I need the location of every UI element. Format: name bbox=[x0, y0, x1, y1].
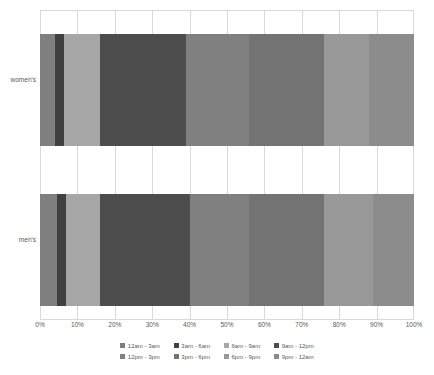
legend-swatch-icon bbox=[224, 354, 229, 359]
x-axis-tick-label: 70% bbox=[295, 322, 308, 329]
bar-segment[interactable] bbox=[249, 194, 324, 306]
chart-legend: 12am - 3am3am - 6am6am - 9am9am - 12pm 1… bbox=[0, 340, 434, 362]
bar-segment[interactable] bbox=[190, 194, 250, 306]
bar-mens[interactable] bbox=[40, 194, 414, 306]
legend-item[interactable]: 12am - 3am bbox=[120, 343, 160, 349]
legend-item[interactable]: 6pm - 9pm bbox=[224, 354, 260, 360]
category-label-mens: men's bbox=[0, 237, 36, 244]
bar-segment[interactable] bbox=[100, 34, 186, 146]
legend-swatch-icon bbox=[274, 343, 279, 348]
bar-segment[interactable] bbox=[324, 34, 369, 146]
bar-womens[interactable] bbox=[40, 34, 414, 146]
bar-segment[interactable] bbox=[55, 34, 64, 146]
bar-segment[interactable] bbox=[324, 194, 373, 306]
x-axis-tick-label: 10% bbox=[71, 322, 84, 329]
x-axis-tick-label: 90% bbox=[370, 322, 383, 329]
bar-segment[interactable] bbox=[66, 194, 100, 306]
legend-swatch-icon bbox=[224, 343, 229, 348]
x-axis-tick-label: 60% bbox=[258, 322, 271, 329]
legend-label: 9am - 12pm bbox=[282, 343, 314, 349]
x-axis-tick-label: 100% bbox=[406, 322, 423, 329]
bar-segment[interactable] bbox=[40, 194, 57, 306]
bar-segment[interactable] bbox=[186, 34, 250, 146]
bar-segment[interactable] bbox=[100, 194, 190, 306]
bar-segment[interactable] bbox=[249, 34, 324, 146]
x-axis: 0%10%20%30%40%50%60%70%80%90%100% bbox=[40, 322, 414, 334]
x-axis-tick-label: 30% bbox=[146, 322, 159, 329]
x-axis-tick-label: 80% bbox=[333, 322, 346, 329]
bar-segment[interactable] bbox=[369, 34, 414, 146]
legend-item[interactable]: 9pm - 12am bbox=[274, 354, 314, 360]
x-axis-tick-label: 0% bbox=[35, 322, 44, 329]
stacked-bar-chart: women's men's 0%10%20%30%40%50%60%70%80%… bbox=[0, 0, 434, 375]
legend-item[interactable]: 3am - 6am bbox=[174, 343, 210, 349]
legend-label: 6am - 9am bbox=[232, 343, 261, 349]
x-axis-tick-label: 40% bbox=[183, 322, 196, 329]
legend-swatch-icon bbox=[174, 343, 179, 348]
legend-label: 3pm - 6pm bbox=[181, 354, 210, 360]
legend-swatch-icon bbox=[174, 354, 179, 359]
category-label-womens: women's bbox=[0, 77, 36, 84]
x-axis-tick-label: 20% bbox=[108, 322, 121, 329]
legend-item[interactable]: 6am - 9am bbox=[224, 343, 260, 349]
legend-item[interactable]: 9am - 12pm bbox=[274, 343, 314, 349]
legend-swatch-icon bbox=[120, 343, 125, 348]
legend-row-top: 12am - 3am3am - 6am6am - 9am9am - 12pm bbox=[0, 340, 434, 351]
bar-segment[interactable] bbox=[57, 194, 66, 306]
x-axis-tick-label: 50% bbox=[220, 322, 233, 329]
legend-label: 9pm - 12am bbox=[282, 354, 314, 360]
bar-segment[interactable] bbox=[40, 34, 55, 146]
legend-item[interactable]: 3pm - 6pm bbox=[174, 354, 210, 360]
legend-label: 6pm - 9pm bbox=[232, 354, 261, 360]
legend-swatch-icon bbox=[274, 354, 279, 359]
legend-row-bottom: 12pm - 3pm3pm - 6pm6pm - 9pm9pm - 12am bbox=[0, 351, 434, 362]
plot-area bbox=[40, 10, 414, 320]
legend-swatch-icon bbox=[120, 354, 125, 359]
legend-item[interactable]: 12pm - 3pm bbox=[120, 354, 160, 360]
bar-segment[interactable] bbox=[64, 34, 100, 146]
legend-label: 3am - 6am bbox=[181, 343, 210, 349]
legend-label: 12am - 3am bbox=[128, 343, 160, 349]
bar-segment[interactable] bbox=[373, 194, 414, 306]
legend-label: 12pm - 3pm bbox=[128, 354, 160, 360]
